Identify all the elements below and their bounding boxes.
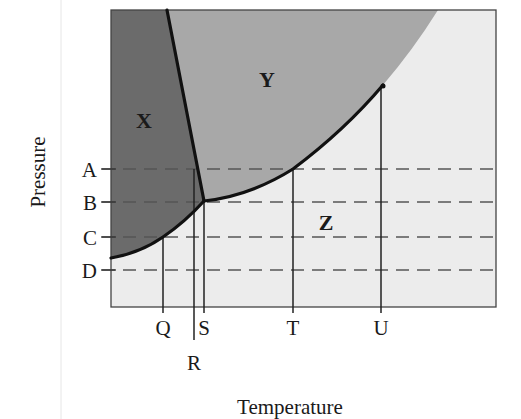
region-label-y: Y [259, 67, 275, 92]
temperature-label-s: S [198, 316, 210, 340]
temperature-label-t: T [287, 316, 300, 340]
y-axis-title: Pressure [26, 136, 50, 207]
temperature-label-u: U [373, 316, 388, 340]
pressure-label-a: A [82, 158, 98, 182]
pressure-label-d: D [82, 259, 97, 283]
temperature-label-r: R [187, 351, 201, 375]
region-label-x: X [136, 108, 152, 133]
x-axis-title: Temperature [237, 395, 343, 419]
pressure-label-b: B [83, 191, 97, 215]
temperature-label-q: Q [155, 316, 170, 340]
phase-diagram: X Y Z A B C D Q R S T U Temperature Pres… [0, 0, 521, 419]
region-label-z: Z [319, 210, 334, 235]
pressure-label-c: C [83, 226, 97, 250]
critical-point [381, 84, 386, 89]
